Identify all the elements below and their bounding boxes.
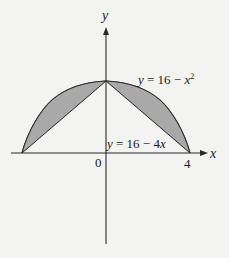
y-axis-arrow-icon <box>103 27 109 35</box>
x-axis-arrow-icon <box>200 150 208 156</box>
x-tick-4-label: 4 <box>184 156 191 171</box>
shaded-fill-left <box>22 81 106 153</box>
parabola-label: y = 16 − x2 <box>136 72 194 87</box>
diagram-canvas: y x 0 4 y = 16 − x2 y = 16 − 4x <box>0 0 229 258</box>
y-axis-label: y <box>100 8 109 23</box>
line-label: y = 16 − 4x <box>105 136 166 151</box>
origin-label: 0 <box>95 155 102 170</box>
x-axis-label: x <box>209 146 217 161</box>
